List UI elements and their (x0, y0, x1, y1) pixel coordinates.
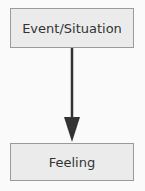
feeling-node: Feeling (10, 143, 134, 181)
feeling-label: Feeling (49, 155, 95, 170)
arrowhead-icon (64, 117, 80, 142)
